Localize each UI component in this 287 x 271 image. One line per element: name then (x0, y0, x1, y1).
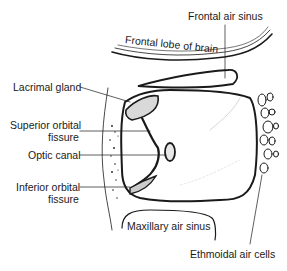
frontal-sinus-shape (138, 70, 237, 87)
optic-canal-shape (165, 143, 175, 161)
bone-stipple (109, 125, 118, 199)
lateral-orbit-wall (102, 88, 112, 230)
label-lacrimal-gland: Lacrimal gland (13, 81, 81, 93)
label-ethmoidal-air-cells: Ethmoidal air cells (190, 248, 275, 260)
label-inferior-orbital: Inferior orbital (16, 181, 80, 193)
label-inferior-orbital-fissure: fissure (48, 193, 79, 205)
lacrimal-leader (80, 87, 130, 102)
label-superior-orbital-fissure: fissure (48, 131, 79, 143)
label-optic-canal: Optic canal (28, 149, 81, 161)
label-superior-orbital: Superior orbital (10, 119, 81, 131)
inferior-orbital-fissure-shape (130, 176, 156, 194)
label-maxillary-air-sinus: Maxillary air sinus (127, 220, 210, 232)
label-frontal-air-sinus: Frontal air sinus (188, 10, 263, 22)
orbit-anatomy-diagram: Frontal air sinus Frontal lobe of brain … (0, 0, 287, 271)
ethmoidal-air-cells-shapes (258, 93, 279, 173)
